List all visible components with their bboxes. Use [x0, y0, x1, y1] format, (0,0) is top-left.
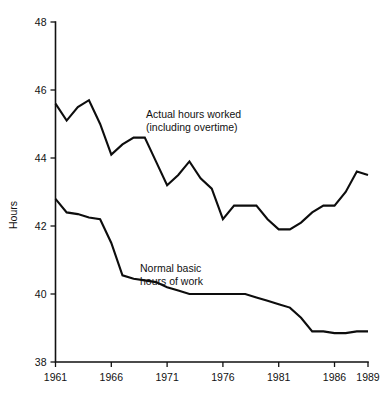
y-axis-tick-group: 384042444648	[35, 16, 56, 368]
annotation-actual-hours-line1: Actual hours worked	[146, 108, 241, 120]
chart-svg: 384042444648 196119661971197619811986198…	[0, 0, 381, 414]
x-axis-tick-label: 1986	[323, 371, 347, 383]
line-chart-container: 384042444648 196119661971197619811986198…	[0, 0, 381, 414]
annotation-normal-basic-line1: Normal basic	[140, 262, 201, 274]
x-axis-tick-group: 1961196619711976198119861989	[44, 362, 380, 383]
y-axis-title: Hours	[7, 201, 19, 229]
chart-axes	[56, 22, 369, 362]
x-axis-tick-label: 1976	[211, 371, 235, 383]
x-axis-tick-label: 1989	[356, 371, 380, 383]
y-axis-tick-label: 44	[35, 152, 47, 164]
y-axis-tick-label: 40	[35, 288, 47, 300]
x-axis-tick-label: 1981	[267, 371, 291, 383]
y-axis-tick-label: 48	[35, 16, 47, 28]
series-line-normal-basic-hours	[56, 199, 369, 333]
x-axis-tick-label: 1971	[155, 371, 179, 383]
y-axis-tick-label: 46	[35, 84, 47, 96]
annotation-actual-hours-line2: (including overtime)	[146, 121, 238, 133]
y-axis-tick-label: 42	[35, 220, 47, 232]
y-axis-tick-label: 38	[35, 356, 47, 368]
annotation-normal-basic-line2: hours of work	[140, 275, 204, 287]
x-axis-tick-label: 1961	[44, 371, 68, 383]
x-axis-tick-label: 1966	[100, 371, 124, 383]
